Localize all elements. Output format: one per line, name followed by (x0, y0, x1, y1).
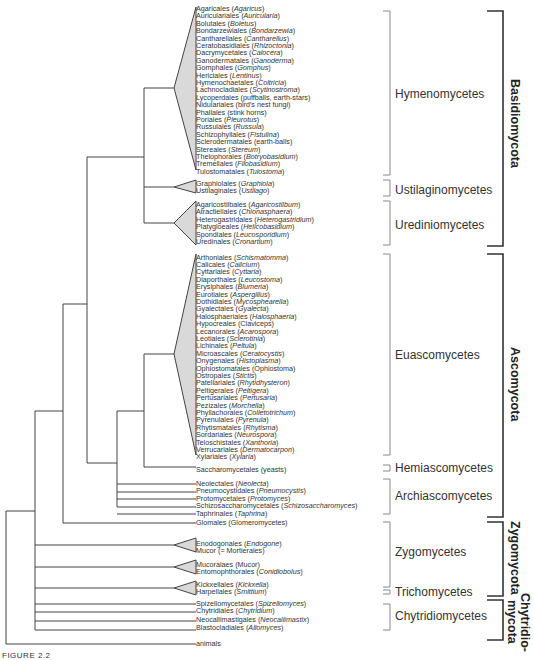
taxon-example: Allomyces (248, 623, 281, 632)
phylum-label-line2: mycota (505, 600, 519, 644)
taxon-example: Cronartium (235, 237, 271, 246)
taxon-order-name: animals (196, 639, 221, 648)
taxon-order-name: Glomales (196, 518, 226, 527)
bracket-trichomycetes (383, 590, 390, 594)
taxon-example: = Mortierales (220, 546, 262, 555)
taxon-label: Xylariales (Xylaria) (196, 453, 256, 460)
class-label: Chytridiomycetes (395, 609, 487, 623)
figure-caption: FIGURE 2.2 (2, 651, 51, 660)
taxon-label: animals (196, 640, 221, 647)
class-label: Hemiascomycetes (395, 461, 493, 475)
taxon-example: Xylaria (232, 452, 254, 461)
taxon-label: Saccharomycetales (yeasts) (196, 466, 286, 473)
taxon-example: Ustilago (241, 186, 267, 195)
taxon-example: Conidiobolus (259, 567, 301, 576)
bracket-chytridiomycetes (383, 604, 390, 630)
triangle-euascomycetes (174, 254, 196, 455)
taxon-order-name: Uredinales (196, 237, 230, 246)
taxon-order-name: Entomophthorales (196, 567, 254, 576)
taxon-example: Taphrina (237, 509, 265, 518)
taxon-label: Glomales (Glomeromycetes) (196, 519, 287, 526)
phylum-label: Ascomycota (508, 347, 522, 421)
class-brackets (383, 11, 390, 630)
tree-branches (6, 88, 196, 644)
bracket-hemiascomycetes (383, 465, 390, 471)
bracket-archiascomycetes (383, 479, 390, 514)
taxon-order-name: Harpellales (196, 587, 232, 596)
taxon-label: Harpellales (Smittium) (196, 588, 267, 595)
taxon-order-name: Ustilaginales (196, 186, 237, 195)
phylum-label: Chytridio- (518, 593, 532, 652)
taxon-label: Entomophthorales (Conidiobolus) (196, 568, 303, 575)
triangle-ustilaginomycetes (174, 180, 196, 193)
triangle-kickxellales (174, 581, 196, 595)
triangle-mucorales (174, 560, 196, 574)
taxon-label: Blastocladiales (Allomyces) (196, 624, 284, 631)
taxon-order-name: Taphrinales (196, 509, 233, 518)
bracket-chytridiomycota (487, 600, 503, 640)
phylum-label: Zygomycota (508, 521, 522, 595)
taxon-order-name: Blastocladiales (196, 623, 244, 632)
taxon-example: Schizosaccharomyces (283, 501, 355, 510)
taxon-label: Uredinales (Cronartium) (196, 238, 273, 245)
taxon-order-name: Saccharomycetales (196, 465, 259, 474)
class-label: Ustilaginomycetes (395, 183, 492, 197)
taxon-label: Neocallimastigales (Neocallimastix) (196, 616, 309, 623)
class-label: Urediniomycetes (395, 218, 484, 232)
bracket-euascomycetes (383, 254, 390, 455)
taxon-example: earth-balls (256, 137, 290, 146)
taxon-example: Glomeromycetes (231, 518, 285, 527)
class-label: Trichomycetes (395, 585, 473, 599)
taxon-example: Smittium (236, 587, 264, 596)
phylum-brackets (487, 11, 503, 640)
triangle-hymenomycetes (174, 7, 196, 170)
taxon-label: Mucor (= Mortierales) (196, 547, 265, 554)
bracket-ascomycota (487, 254, 503, 517)
taxon-order-name: Tulostomatales (196, 167, 244, 176)
phylum-label: Basidiomycota (508, 79, 522, 168)
taxon-example: yeasts (263, 465, 284, 474)
taxon-order-name: Mucor (196, 546, 216, 555)
bracket-ustilaginomycetes (383, 180, 390, 196)
taxon-example: Tulostoma (249, 167, 282, 176)
bracket-zygomycota (487, 522, 503, 596)
taxon-label: Chytridiales (Chytridium) (196, 607, 275, 614)
bracket-urediniomycetes (383, 201, 390, 245)
class-label: Euascomycetes (395, 348, 480, 362)
bracket-hymenomycetes (383, 11, 390, 175)
taxon-order-name: Xylariales (196, 452, 227, 461)
taxon-label: Ustilaginales (Ustilago) (196, 187, 270, 194)
taxon-label: Taphrinales (Taphrina) (196, 510, 267, 517)
bracket-basidiomycota (487, 11, 503, 246)
taxon-label: Tulostomatales (Tulostoma) (196, 168, 284, 175)
class-label: Hymenomycetes (395, 87, 484, 101)
bracket-zygomycetes (383, 522, 390, 587)
triangle-endogonales (174, 538, 196, 552)
class-label: Zygomycetes (395, 545, 466, 559)
taxon-example: Ophiostoma (254, 364, 293, 373)
class-label: Archiascomycetes (395, 489, 492, 503)
triangle-urediniomycetes (174, 201, 196, 245)
